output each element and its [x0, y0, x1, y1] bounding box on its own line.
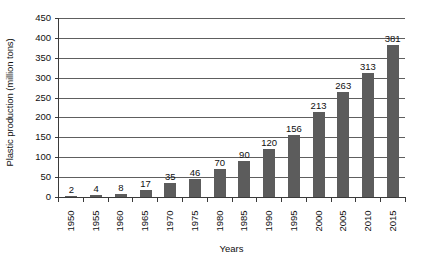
bar-slot: 17	[133, 18, 158, 197]
x-axis-tick-label-text: 1990	[264, 210, 274, 231]
x-axis-tick-mark	[306, 197, 307, 202]
bar: 381	[387, 45, 399, 197]
x-axis-tick-label-text: 2005	[338, 210, 348, 231]
bar-value-label: 2	[69, 185, 74, 195]
y-axis-tick-label: 400	[21, 33, 51, 43]
x-axis-tick-label-text: 1965	[140, 210, 150, 231]
plot-area: 2481735467090120156213263313381	[58, 18, 405, 197]
x-axis-tick-mark	[207, 197, 208, 202]
bar-slot: 4	[84, 18, 109, 197]
x-axis-tick-mark	[256, 197, 257, 202]
x-axis-tick-mark	[58, 197, 59, 202]
x-axis-tick-mark	[281, 197, 282, 202]
y-axis-title-text: Plastic production (million tons)	[4, 38, 15, 166]
bar-value-label: 156	[286, 124, 302, 134]
bar: 17	[140, 190, 152, 197]
x-axis-tick-mark	[182, 197, 183, 202]
bar-value-label: 213	[311, 101, 327, 111]
bar-slot: 90	[232, 18, 257, 197]
x-axis-tick-mark	[83, 197, 84, 202]
x-axis-tick-mark	[232, 197, 233, 202]
bar-slot: 35	[158, 18, 183, 197]
bar-slot: 263	[331, 18, 356, 197]
y-axis-tick-label: 50	[21, 172, 51, 182]
bar-slot: 156	[281, 18, 306, 197]
plastic-production-bar-chart: Plastic production (million tons) 050100…	[0, 0, 421, 264]
y-axis-title: Plastic production (million tons)	[0, 0, 18, 205]
bar: 120	[263, 149, 275, 197]
bar: 35	[164, 183, 176, 197]
bar-value-label: 4	[93, 184, 98, 194]
x-axis-tick-label-text: 1985	[239, 210, 249, 231]
x-axis-tick-mark	[380, 197, 381, 202]
bar-slot: 46	[183, 18, 208, 197]
bar-value-label: 8	[118, 183, 123, 193]
x-axis-tick-label-text: 2015	[388, 210, 398, 231]
x-axis-tick-mark	[108, 197, 109, 202]
bar-value-label: 120	[261, 138, 277, 148]
bar-value-label: 90	[239, 150, 250, 160]
bar-value-label: 313	[360, 62, 376, 72]
bar: 70	[214, 169, 226, 197]
bar-slot: 120	[257, 18, 282, 197]
x-axis-tick-label-text: 1980	[214, 210, 224, 231]
y-axis-tick-label: 0	[21, 192, 51, 202]
bar-value-label: 35	[165, 172, 176, 182]
bar: 46	[189, 179, 201, 197]
x-axis-tick-label-text: 2010	[363, 210, 373, 231]
bar-value-label: 263	[335, 81, 351, 91]
y-axis-tick-labels: 050100150200250300350400450	[22, 18, 55, 197]
bar-value-label: 381	[385, 34, 401, 44]
bar-value-label: 70	[214, 158, 225, 168]
y-axis-tick-label: 450	[21, 13, 51, 23]
x-axis-tick-mark	[355, 197, 356, 202]
x-axis-tick-label-text: 1975	[189, 210, 199, 231]
bar-value-label: 17	[140, 179, 151, 189]
x-axis-tick-label-text: 1955	[90, 210, 100, 231]
bars-layer: 2481735467090120156213263313381	[59, 18, 405, 197]
x-axis-tick-mark	[405, 197, 406, 202]
x-axis-tick-mark	[331, 197, 332, 202]
bar-value-label: 46	[190, 168, 201, 178]
bar: 263	[337, 92, 349, 197]
x-axis-title: Years	[58, 243, 405, 254]
bar: 313	[362, 73, 374, 198]
x-axis-tick-mark	[157, 197, 158, 202]
y-axis-tick-label: 100	[21, 152, 51, 162]
y-axis-tick-label: 250	[21, 93, 51, 103]
bar-slot: 213	[306, 18, 331, 197]
x-axis-tick-label-text: 1995	[288, 210, 298, 231]
y-axis-tick-label: 150	[21, 133, 51, 143]
y-axis-tick-label: 350	[21, 53, 51, 63]
x-axis-tick-label-text: 1950	[65, 210, 75, 231]
bar-slot: 313	[356, 18, 381, 197]
bar-slot: 381	[380, 18, 405, 197]
x-axis-tick-label-text: 2000	[313, 210, 323, 231]
y-axis-tick-label: 300	[21, 73, 51, 83]
x-axis-tick-label: 2015	[375, 203, 411, 239]
bar: 156	[288, 135, 300, 197]
bar-slot: 8	[108, 18, 133, 197]
x-axis-tick-label-text: 1960	[115, 210, 125, 231]
x-axis-tick-label-text: 1970	[165, 210, 175, 231]
y-axis-tick-label: 200	[21, 113, 51, 123]
bar-slot: 2	[59, 18, 84, 197]
bar: 213	[313, 112, 325, 197]
bar-slot: 70	[207, 18, 232, 197]
x-axis-tick-marks	[58, 197, 405, 202]
x-axis-tick-labels: 1950195519601965197019751980198519901995…	[58, 203, 405, 239]
x-axis-tick-mark	[132, 197, 133, 202]
bar: 90	[238, 161, 250, 197]
